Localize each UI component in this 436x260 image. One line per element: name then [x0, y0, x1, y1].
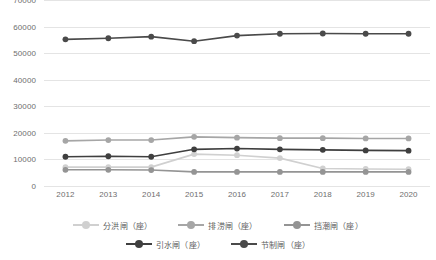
data-point [63, 167, 69, 173]
legend-marker-icon [231, 239, 257, 249]
data-point [234, 146, 240, 152]
y-axis-tick-label: 50000 [13, 49, 36, 58]
data-point [191, 38, 197, 44]
data-point [277, 31, 283, 37]
data-point [191, 134, 197, 140]
series-3 [63, 167, 412, 175]
series-2 [63, 134, 412, 144]
legend-marker-icon [126, 239, 152, 249]
data-point [105, 35, 111, 41]
data-point [363, 169, 369, 175]
data-point [320, 135, 326, 141]
data-point [406, 148, 412, 154]
chart-legend: 分洪闸（座）排涝闸（座）挡潮闸（座） 引水闸（座）节制闸（座） [0, 214, 436, 260]
line-chart: 700006000050000400003000020000100000 201… [0, 0, 436, 260]
x-axis-tick-label: 2018 [314, 190, 332, 199]
data-point [234, 169, 240, 175]
y-axis-tick-label: 40000 [13, 75, 36, 84]
data-point [148, 154, 154, 160]
legend-row-2: 引水闸（座）节制闸（座） [0, 235, 436, 253]
plot-area: 700006000050000400003000020000100000 201… [0, 0, 436, 212]
gridline [44, 186, 430, 187]
x-axis-tick-label: 2020 [399, 190, 417, 199]
legend-row-1: 分洪闸（座）排涝闸（座）挡潮闸（座） [0, 216, 436, 234]
data-point [234, 152, 240, 158]
x-axis-tick-label: 2015 [185, 190, 203, 199]
data-point [148, 167, 154, 173]
data-point [363, 136, 369, 142]
legend-item[interactable]: 引水闸（座） [126, 235, 205, 253]
legend-item[interactable]: 挡潮闸（座） [284, 216, 363, 234]
data-point [148, 137, 154, 143]
data-point [406, 31, 412, 37]
legend-item-label: 引水闸（座） [156, 239, 205, 250]
data-point [63, 154, 69, 160]
y-axis: 700006000050000400003000020000100000 [0, 0, 40, 186]
data-point [148, 34, 154, 40]
x-axis-tick-label: 2016 [228, 190, 246, 199]
y-axis-tick-label: 30000 [13, 102, 36, 111]
data-point [320, 31, 326, 37]
series-5 [63, 31, 412, 45]
x-axis-tick-label: 2014 [142, 190, 160, 199]
data-point [105, 153, 111, 159]
data-point [191, 169, 197, 175]
data-point [234, 135, 240, 141]
legend-item-label: 分洪闸（座） [103, 220, 152, 231]
y-axis-tick-label: 0 [31, 182, 36, 191]
x-axis-tick-label: 2017 [271, 190, 289, 199]
data-point [63, 138, 69, 144]
legend-item-label: 排涝闸（座） [208, 220, 257, 231]
x-axis: 201220132014201520162017201820192020 [44, 190, 430, 208]
data-point [320, 147, 326, 153]
data-point [363, 31, 369, 37]
series-layer [44, 0, 430, 186]
data-point [277, 169, 283, 175]
y-axis-tick-label: 10000 [13, 155, 36, 164]
data-point [277, 155, 283, 161]
data-point [363, 147, 369, 153]
data-point [105, 167, 111, 173]
y-axis-tick-label: 70000 [13, 0, 36, 5]
x-axis-tick-label: 2012 [56, 190, 74, 199]
data-point [277, 135, 283, 141]
legend-item[interactable]: 节制闸（座） [231, 235, 310, 253]
legend-item[interactable]: 排涝闸（座） [178, 216, 257, 234]
data-point [406, 136, 412, 142]
data-point [63, 36, 69, 42]
data-point [234, 33, 240, 39]
legend-marker-icon [178, 220, 204, 230]
data-point [105, 137, 111, 143]
x-axis-tick-label: 2019 [357, 190, 375, 199]
legend-item-label: 挡潮闸（座） [314, 220, 363, 231]
data-point [320, 169, 326, 175]
data-point [191, 146, 197, 152]
x-axis-tick-label: 2013 [99, 190, 117, 199]
legend-item-label: 节制闸（座） [261, 239, 310, 250]
legend-item[interactable]: 分洪闸（座） [73, 216, 152, 234]
y-axis-tick-label: 20000 [13, 128, 36, 137]
data-point [277, 146, 283, 152]
legend-marker-icon [73, 220, 99, 230]
y-axis-tick-label: 60000 [13, 22, 36, 31]
data-point [406, 169, 412, 175]
legend-marker-icon [284, 220, 310, 230]
